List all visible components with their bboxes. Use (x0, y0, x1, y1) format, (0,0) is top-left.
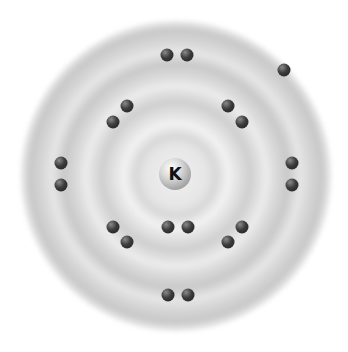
electron (286, 157, 299, 170)
electron (161, 49, 174, 62)
electron (222, 236, 235, 249)
electron (286, 179, 299, 192)
electron (236, 221, 249, 234)
electron (181, 49, 194, 62)
electron (121, 100, 134, 113)
element-symbol: K (168, 164, 181, 184)
electron (236, 116, 249, 129)
electron (162, 221, 175, 234)
electron (55, 179, 68, 192)
electron (107, 116, 120, 129)
electron (222, 100, 235, 113)
electron (182, 289, 195, 302)
electron (121, 236, 134, 249)
electron (278, 64, 291, 77)
electron (162, 289, 175, 302)
electron (182, 221, 195, 234)
electron (107, 221, 120, 234)
nucleus: K (159, 158, 191, 190)
electron (55, 157, 68, 170)
